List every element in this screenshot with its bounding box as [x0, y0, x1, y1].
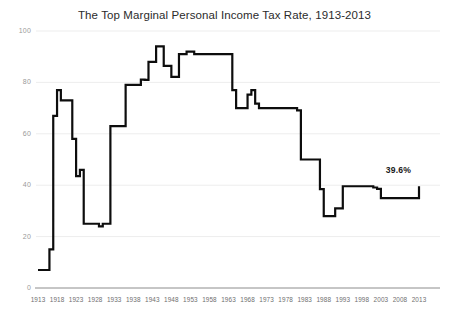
- tax-rate-line-plot: [0, 0, 449, 316]
- gridlines: [36, 31, 440, 237]
- chart-container: The Top Marginal Personal Income Tax Rat…: [0, 0, 449, 316]
- value-annotation-39-6-percent: 39.6%: [386, 165, 411, 175]
